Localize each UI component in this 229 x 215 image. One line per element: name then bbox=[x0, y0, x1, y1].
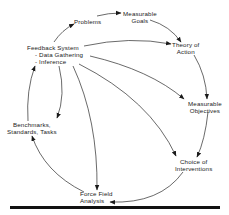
edge-feedback-problems bbox=[54, 24, 74, 42]
node-label: Standards, Tasks bbox=[7, 128, 57, 135]
node-force-field-analysis: Force Field Analysis bbox=[80, 190, 113, 204]
edge-forcefield-benchmarks bbox=[32, 136, 84, 192]
node-feedback-system: Feedback System - Data Gathering - Infer… bbox=[27, 44, 83, 65]
edge-objectives-interventions bbox=[197, 112, 208, 157]
node-label: Measurable bbox=[188, 100, 222, 107]
node-label: Feedback System bbox=[27, 44, 83, 51]
node-label: Theory of bbox=[172, 41, 200, 48]
edge-feedback-objectives bbox=[90, 56, 184, 99]
node-label: Measurable bbox=[123, 10, 157, 17]
node-label: Choice of bbox=[175, 158, 212, 165]
edge-feedback-forcefield bbox=[73, 66, 97, 190]
node-measurable-goals: Measurable Goals bbox=[123, 10, 157, 24]
node-sublabel: - Data Gathering bbox=[27, 51, 83, 58]
node-label: Analysis bbox=[80, 197, 113, 204]
node-label: Interventions bbox=[175, 165, 212, 172]
node-choice-of-interventions: Choice of Interventions bbox=[175, 158, 212, 172]
node-sublabel: - Inference bbox=[27, 58, 83, 65]
node-label: Benchmarks, bbox=[7, 121, 57, 128]
node-label: Problems bbox=[74, 18, 101, 25]
node-problems: Problems bbox=[74, 18, 101, 25]
node-theory-of-action: Theory of Action bbox=[172, 41, 200, 55]
edge-feedback-benchmarks bbox=[57, 66, 62, 118]
node-benchmarks: Benchmarks, Standards, Tasks bbox=[7, 121, 57, 135]
bottom-rule bbox=[10, 206, 220, 209]
node-label: Objectives bbox=[188, 107, 222, 114]
edge-interventions-forcefield bbox=[110, 172, 183, 202]
node-label: Goals bbox=[123, 17, 157, 24]
node-label: Action bbox=[172, 48, 200, 55]
node-label: Force Field bbox=[80, 190, 113, 197]
edge-theory-objectives bbox=[194, 55, 207, 99]
edge-feedback-interventions bbox=[79, 64, 176, 156]
edge-feedback-theory bbox=[84, 40, 171, 46]
edge-benchmarks-feedback bbox=[28, 66, 35, 121]
edge-problems-goals bbox=[97, 13, 121, 16]
node-measurable-objectives: Measurable Objectives bbox=[188, 100, 222, 114]
